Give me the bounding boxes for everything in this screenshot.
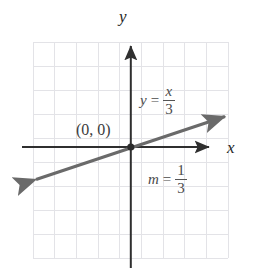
equation-equals-sign: = xyxy=(149,93,162,108)
y-axis-label: y xyxy=(119,8,127,25)
slope-label: m = 1 3 xyxy=(148,163,187,197)
equation-lhs: y xyxy=(140,93,149,108)
x-axis-label: x xyxy=(227,139,235,156)
equation-label: y = x 3 xyxy=(140,84,175,118)
slope-fraction: 1 3 xyxy=(175,163,187,197)
equation-numerator: x xyxy=(164,84,175,100)
slope-lhs: m xyxy=(148,172,161,187)
slope-equals-sign: = xyxy=(161,172,174,187)
origin-point-marker xyxy=(127,143,134,150)
slope-expression: m = 1 3 xyxy=(148,163,187,197)
equation-denominator: 3 xyxy=(163,101,175,117)
equation-expression: y = x 3 xyxy=(140,84,175,118)
slope-numerator: 1 xyxy=(175,163,187,179)
slope-denominator: 3 xyxy=(175,180,187,196)
graph-figure: y x (0, 0) y = x 3 m = 1 3 xyxy=(0,0,257,275)
origin-coordinate-label: (0, 0) xyxy=(76,122,111,138)
coordinate-plane-svg xyxy=(0,0,257,275)
equation-fraction: x 3 xyxy=(163,84,175,118)
